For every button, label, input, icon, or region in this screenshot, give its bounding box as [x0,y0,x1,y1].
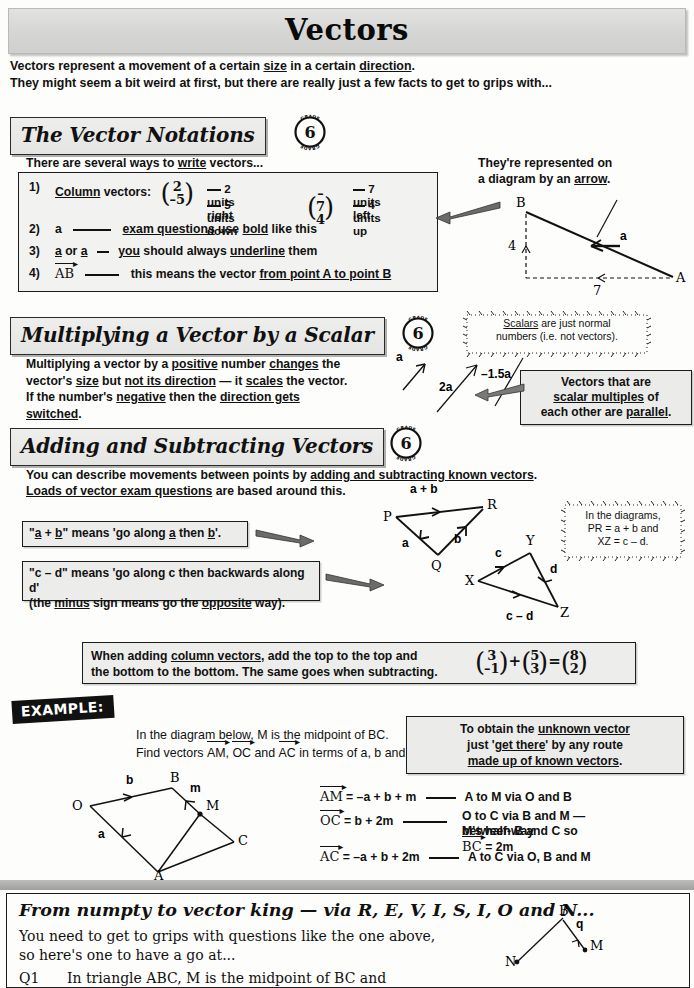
scalars-note-line1: Scalars are just normal [472,317,642,330]
item3-sym-b: a [81,244,88,258]
tip-line3: made up of known vectors. [414,753,676,769]
footer-paragraph: You need to get to grips with questions … [19,927,435,965]
item3-u1: you [118,244,140,258]
label-O: O [72,798,83,813]
item3-number: 3) [29,244,51,258]
grade-badge-icon-2: 6 GRADE GRADE [400,315,436,351]
example-question: In the diagram below, M is the midpoint … [136,726,423,762]
item2-u2: bold [242,222,268,236]
cv2-top: –7 [316,187,325,213]
label-a-ex: a [98,827,105,841]
diagram-note-bubble: In the diagrams, PR = a + b and XZ = c –… [560,500,686,555]
footer-label-B: B [559,903,569,918]
vector-AC-label: AC▸ [279,744,296,762]
item4-body: AB▸ this means the vector from point A t… [55,267,391,281]
parallel-line3: each other are parallel. [528,405,684,420]
cd-line2: (the minus sign means go the opposite wa… [29,596,313,611]
label-2a-vector: 2a [439,380,453,394]
grade-badge-icon-1: 6 GRADE GRADE [292,114,328,150]
callout-a-plus-b: "a + b" means 'go along a then b'. [22,521,248,547]
parallel-callout: Vectors that are scalar multiples of eac… [520,370,692,425]
example-tip-box: To obtain the unknown vector just 'get t… [406,716,684,774]
label-m-ex: m [190,781,201,795]
section1-diagram-caption: They're represented on a diagram by an a… [478,155,612,187]
section-heading-adding-subtracting: Adding and Subtracting Vectors [10,428,384,466]
diagram-note-text: In the diagrams, PR = a + b and XZ = c –… [560,500,686,555]
footer-question-text: In triangle ABC, M is the midpoint of BC… [67,970,386,986]
section-heading-vector-notations: The Vector Notations [10,117,266,155]
sum-op-1: + [509,652,522,670]
scalars-note-line2: numbers (i.e. not vectors). [472,330,642,343]
example-quadrilateral-diagram: O A B C M b a m [60,772,310,880]
notation-box: 1) Column vectors: 2 –5 2 units right 5 … [18,172,438,292]
s1-lead-u: write [178,156,206,170]
answer3-vector: AC▸ [320,849,339,864]
item2-end: like this [268,222,317,236]
notation-item-2: 2) a exam questions use bold like this [29,222,431,236]
answer3-note: A to C via O, B and M [468,850,591,864]
s1-lead-b: vectors... [206,156,263,170]
answer1-equation: = –a + b + m [346,790,416,804]
label-c: c [495,546,502,560]
sum-vec-3: 82 [561,649,588,675]
s2-line1: Multiplying a vector by a positive numbe… [26,356,356,373]
intro-text: Vectors represent a movement of a certai… [10,58,680,91]
vector-OC-label: OC▸ [232,744,251,762]
intro-1c: . [411,59,414,73]
example-tag: EXAMPLE: [11,695,114,724]
intro-1b: in a certain [287,59,359,73]
answer2-vector: OC▸ [320,813,341,828]
item1-body: Column vectors: 2 –5 2 units right 5 uni… [55,185,194,199]
item1-label-u: Column [55,185,100,199]
item3-end: them [285,244,318,258]
footer-triangle-diagram: B N M q [459,906,639,986]
callout-a-plus-b-text: "a + b" means 'go along a then b'. [23,522,247,544]
grade-badge-icon-3: 6 GRADE GRADE [388,425,424,461]
vector-AM-label: AM▸ [207,744,226,762]
column-sum-expression: 3–1+53=82 [475,649,588,675]
label-b-ex: b [126,773,133,787]
footer-label-N: N [505,954,516,969]
example-answers: AM▸ = –a + b + m A to M via O and B OC▸ … [320,789,591,873]
cb-line2: the bottom to the bottom. The same goes … [91,664,438,680]
column-box-text: When adding column vectors, add the top … [91,648,438,680]
footer-line1: You need to get to grips with questions … [19,927,435,946]
footer-label-M: M [590,938,603,953]
label-value-4: 4 [508,238,516,253]
sum-op-2: = [548,652,561,670]
svg-text:GRADE: GRADE [396,425,417,433]
notation-item-1: 1) Column vectors: 2 –5 2 units right 5 … [29,180,431,214]
notation-item-4: 4) AB▸ this means the vector from point … [29,266,431,281]
item4-number: 4) [29,266,51,280]
answer1-note: A to M via O and B [465,790,572,804]
label-R: R [487,497,498,512]
cb-line1: When adding column vectors, add the top … [91,648,438,664]
answer2-equation: = b + 2m [344,814,393,828]
sum-vec-1: 3–1 [475,649,509,675]
answer1-vector: AM▸ [320,789,343,804]
label-point-B: B [516,195,526,210]
section2-heading-text: Multiplying a Vector by a Scalar [21,323,374,347]
s1-lead-a: There are several ways to [26,156,178,170]
label-point-A: A [675,270,686,285]
page-title: Vectors [9,13,685,47]
caption-line1: They're represented on [478,155,612,171]
label-Z: Z [560,605,569,620]
section3-heading-text: Adding and Subtracting Vectors [21,434,373,458]
label-B-ex: B [170,770,180,785]
item4-u: from point A to point B [259,267,391,281]
intro-1a: Vectors represent a movement of a certai… [10,59,263,73]
item2-number: 2) [29,222,51,236]
footer-divider-band [0,880,694,890]
svg-text:GRADE: GRADE [300,114,321,122]
dn-line1: In the diagrams, [570,509,676,522]
label-Y: Y [525,533,535,548]
svg-text:GRADE: GRADE [396,454,417,462]
label-X: X [465,573,475,588]
answer3-equation: = –a + b + 2m [343,850,420,864]
footer-question-number: Q1 [19,970,39,986]
intro-1u1: size [263,59,286,73]
scalars-note-text: Scalars are just normal numbers (i.e. no… [462,310,652,350]
label-value-7: 7 [593,283,601,298]
